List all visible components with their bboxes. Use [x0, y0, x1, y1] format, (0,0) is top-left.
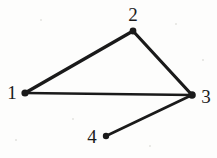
paper-speck — [175, 23, 177, 25]
graph-node-dot-4 — [103, 133, 109, 139]
graph-edge-3-4 — [106, 95, 192, 136]
paper-speck — [202, 59, 204, 61]
graph-edge-1-2 — [25, 31, 133, 93]
graph-node-label-1: 1 — [7, 83, 17, 102]
graph-figure: 1234 — [0, 0, 217, 158]
graph-node-label-3: 3 — [201, 87, 211, 106]
graph-edge-2-3 — [133, 31, 192, 95]
paper-speck — [15, 139, 17, 141]
graph-node-dot-1 — [21, 89, 28, 96]
graph-node-label-4: 4 — [87, 127, 97, 146]
graph-canvas — [0, 0, 217, 158]
graph-edge-1-3 — [25, 93, 192, 95]
edge-layer — [25, 31, 192, 136]
paper-speck — [149, 145, 151, 147]
paper-speck — [72, 118, 74, 120]
graph-node-label-2: 2 — [128, 5, 138, 24]
graph-node-dot-3 — [188, 91, 196, 99]
graph-node-dot-2 — [130, 28, 137, 35]
